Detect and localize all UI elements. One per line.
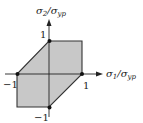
x-neg-tick: −1 xyxy=(3,79,18,90)
point-1-0 xyxy=(80,72,84,76)
x-axis-arrow-icon xyxy=(96,72,103,77)
point-0-neg1 xyxy=(48,106,52,110)
y-axis-label: σ2/σyp xyxy=(36,5,66,18)
x-axis-label: σ1/σyp xyxy=(106,68,136,81)
y-pos-tick: 1 xyxy=(40,29,46,40)
point-0-1 xyxy=(48,39,52,43)
x-pos-tick: 1 xyxy=(83,80,89,91)
y-neg-tick: −1 xyxy=(34,112,49,123)
y-axis-arrow-icon xyxy=(47,19,52,26)
point-neg1-0 xyxy=(16,72,20,76)
yield-surface-diagram: 1 1 −1 −1 σ2/σyp σ1/σyp xyxy=(0,0,143,123)
